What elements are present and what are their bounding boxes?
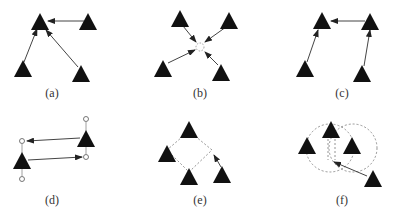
node-icon [343,137,361,154]
anchor-point-icon [20,177,25,182]
panel-label-b: (b) [193,86,207,101]
panel-b [154,10,238,81]
leader-node-icon [31,13,49,30]
panel-label-c: (c) [335,86,348,101]
node-icon [158,145,176,162]
node-icon [353,65,371,82]
anchor-point-icon [84,117,89,122]
panel-f [298,121,382,187]
node-icon [213,166,231,183]
panel-label-f: (f) [336,193,348,208]
panel-label-a: (a) [45,86,58,101]
node-icon [322,121,340,138]
panel-a [14,13,97,82]
node-icon [212,64,230,81]
node-icon [296,60,314,77]
panel-d [13,117,95,182]
node-icon [72,65,90,82]
node-icon [220,12,238,29]
virtual-center-icon [196,43,204,51]
panel-label-e: (e) [193,193,206,208]
node-icon [180,121,198,138]
panel-c [296,12,379,82]
node-icon [180,168,198,185]
anchor-point-icon [20,139,25,144]
panel-label-d: (d) [45,193,59,208]
node-icon [171,10,189,27]
anchor-point-icon [84,155,89,160]
node-icon [14,60,32,77]
node-icon [364,170,382,187]
node-icon [298,137,316,154]
leader-node-icon [313,12,331,29]
diagram-canvas [0,0,400,217]
panel-e [158,121,231,185]
